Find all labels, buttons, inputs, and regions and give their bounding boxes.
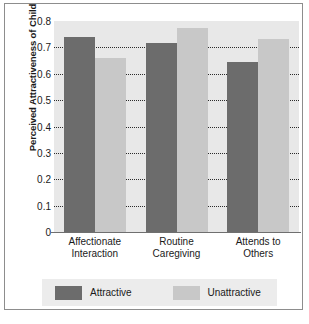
y-axis-tick-label: 0.4 — [23, 121, 51, 132]
y-axis-tick-label: 0 — [23, 227, 51, 238]
chart-figure: Perceived Attractiveness of Child 0.80.7… — [4, 3, 303, 310]
legend-swatch-attractive — [55, 286, 82, 300]
x-axis-line — [51, 232, 301, 233]
bar-groups — [54, 21, 299, 232]
bar-group — [136, 21, 218, 232]
legend-entry: Attractive — [42, 286, 160, 300]
bar-attractive — [64, 37, 95, 232]
bar-unattractive — [258, 39, 289, 232]
category-label: RoutineCaregiving — [136, 236, 218, 259]
category-label: AffectionateInteraction — [54, 236, 136, 259]
bar-unattractive — [177, 28, 208, 232]
category-label: Attends toOthers — [217, 236, 299, 259]
legend-label: Unattractive — [208, 287, 261, 298]
plot-area — [54, 21, 299, 232]
y-axis-tick-label: 0.2 — [23, 174, 51, 185]
category-label-line: Others — [217, 248, 299, 260]
chart-legend: AttractiveUnattractive — [42, 279, 277, 306]
bar-unattractive — [95, 58, 126, 232]
bar-attractive — [146, 43, 177, 232]
bar-attractive — [227, 62, 258, 232]
y-axis-tick-label: 0.1 — [23, 200, 51, 211]
y-axis-tick-label: 0.5 — [23, 95, 51, 106]
y-axis-tick-label: 0.7 — [23, 42, 51, 53]
y-axis-tick-label: 0.8 — [23, 16, 51, 27]
category-label-line: Attends to — [217, 236, 299, 248]
x-axis-category-labels: AffectionateInteractionRoutineCaregiving… — [54, 236, 299, 259]
category-label-line: Routine — [136, 236, 218, 248]
legend-entry: Unattractive — [160, 286, 278, 300]
legend-swatch-unattractive — [173, 286, 200, 300]
bar-group — [217, 21, 299, 232]
category-label-line: Interaction — [54, 248, 136, 260]
category-label-line: Caregiving — [136, 248, 218, 260]
legend-label: Attractive — [90, 287, 132, 298]
y-axis-tick-labels: 0.80.70.60.50.40.30.20.10 — [23, 18, 51, 233]
y-axis-tick-label: 0.3 — [23, 147, 51, 158]
y-axis-tick-label: 0.6 — [23, 68, 51, 79]
category-label-line: Affectionate — [54, 236, 136, 248]
bar-group — [54, 21, 136, 232]
